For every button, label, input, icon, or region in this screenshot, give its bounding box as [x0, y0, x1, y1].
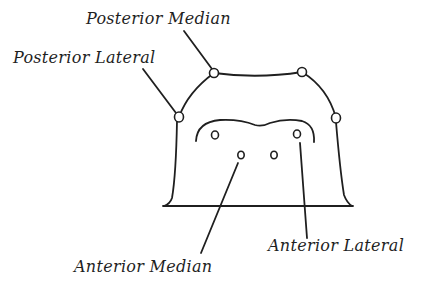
eye-anterior-lateral-right-icon	[294, 130, 301, 138]
eye-posterior-lateral-left-icon	[175, 112, 184, 122]
leader-anterior-lateral	[300, 143, 307, 238]
carapace-left-shoulder	[179, 73, 214, 117]
carapace-right-shoulder	[302, 72, 336, 118]
eye-posterior-median-left-icon	[210, 69, 219, 78]
leader-posterior-lateral	[143, 69, 176, 113]
eye-anterior-lateral-left-icon	[212, 131, 219, 139]
label-posterior-lateral: Posterior Lateral	[13, 50, 155, 66]
leader-anterior-median	[201, 163, 238, 253]
eye-posterior-lateral-right-icon	[332, 113, 341, 123]
label-anterior-lateral: Anterior Lateral	[268, 238, 404, 254]
eye-anterior-median-left-icon	[238, 151, 244, 159]
carapace-top-edge	[214, 72, 302, 76]
leader-posterior-median	[184, 31, 212, 69]
eye-posterior-median-right-icon	[298, 68, 307, 77]
carapace-right-side	[336, 122, 352, 206]
carapace-left-side	[164, 121, 177, 206]
label-anterior-median: Anterior Median	[74, 259, 212, 275]
eye-anterior-median-right-icon	[271, 151, 277, 159]
label-posterior-median: Posterior Median	[86, 11, 231, 27]
